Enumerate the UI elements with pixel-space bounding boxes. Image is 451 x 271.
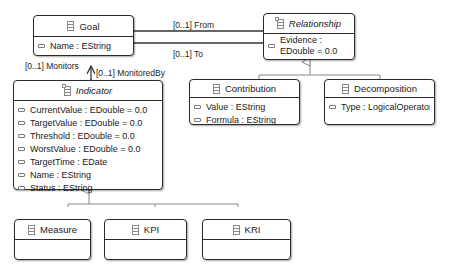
class-name: Contribution [225, 83, 276, 94]
association-label-monitored-by: [0..1] MonitoredBy [96, 68, 165, 78]
attribute[interactable]: WorstValue : EDouble = 0.0 [18, 142, 158, 155]
class-relationship[interactable]: Relationship Evidence : EDouble = 0.0 [263, 13, 355, 60]
eclass-icon [67, 21, 74, 31]
class-measure[interactable]: Measure [14, 219, 91, 260]
eattribute-icon [38, 44, 45, 48]
class-name: KPI [144, 224, 159, 235]
class-goal[interactable]: Goal Name : EString [33, 15, 134, 56]
attribute[interactable]: TargetValue : EDouble = 0.0 [18, 116, 158, 129]
class-name: Measure [40, 224, 77, 235]
eattribute-icon [18, 134, 25, 138]
class-header: Contribution [190, 80, 299, 98]
association-label-monitors: [0..1] Monitors [25, 61, 79, 71]
class-name: Goal [79, 21, 99, 32]
class-name: Relationship [289, 18, 341, 29]
association-label-to: [0..1] To [173, 49, 203, 59]
class-indicator[interactable]: Indicator CurrentValue : EDouble = 0.0 T… [13, 80, 163, 190]
inheritance-indicator [68, 204, 238, 207]
eattribute-icon [18, 186, 25, 190]
class-decomposition[interactable]: Decomposition Type : LogicalOperator [324, 79, 435, 125]
class-header: Relationship [264, 14, 354, 34]
attribute[interactable]: TargetTime : EDate [18, 155, 158, 168]
class-header: Indicator [14, 81, 162, 101]
abstract-eclass-icon [277, 19, 284, 29]
class-header: Measure [15, 220, 90, 240]
attribute-list: Type : LogicalOperator [325, 98, 434, 113]
attribute[interactable]: Evidence : EDouble = 0.0 [280, 35, 337, 57]
eclass-icon [132, 225, 139, 235]
eattribute-icon [18, 121, 25, 125]
eattribute-icon [18, 147, 25, 151]
attribute[interactable]: Type : LogicalOperator [329, 100, 430, 113]
attribute[interactable]: Formula : EString [194, 113, 295, 126]
attribute-list: Value : EString Formula : EString [190, 98, 299, 126]
eattribute-icon [329, 105, 336, 109]
eattribute-icon [18, 108, 25, 112]
class-header: KPI [105, 220, 186, 240]
class-name: Indicator [76, 85, 112, 96]
eattribute-icon [194, 105, 201, 109]
attribute-list: CurrentValue : EDouble = 0.0 TargetValue… [14, 101, 162, 194]
class-kri[interactable]: KRI [202, 219, 291, 260]
attribute[interactable]: Threshold : EDouble = 0.0 [18, 129, 158, 142]
eclass-icon [213, 84, 220, 94]
eattribute-icon [268, 44, 275, 48]
attribute[interactable]: Name : EString [18, 168, 158, 181]
class-header: Decomposition [325, 80, 434, 98]
class-name: KRI [245, 224, 261, 235]
class-name: Decomposition [354, 83, 417, 94]
association-label-from: [0..1] From [173, 20, 214, 30]
attribute-list: Name : EString [34, 37, 133, 52]
class-contribution[interactable]: Contribution Value : EString Formula : E… [189, 79, 300, 125]
attribute[interactable]: CurrentValue : EDouble = 0.0 [18, 103, 158, 116]
class-header: KRI [203, 220, 290, 240]
attribute[interactable]: Name : EString [38, 39, 129, 52]
class-header: Goal [34, 16, 133, 37]
attribute[interactable]: Value : EString [194, 100, 295, 113]
eattribute-icon [18, 173, 25, 177]
eattribute-icon [194, 118, 201, 122]
eclass-icon [342, 84, 349, 94]
eattribute-icon [18, 160, 25, 164]
eclass-icon [233, 225, 240, 235]
abstract-eclass-icon [64, 86, 71, 96]
attribute[interactable]: Status : EString [18, 181, 158, 194]
class-kpi[interactable]: KPI [104, 219, 187, 260]
eclass-icon [28, 225, 35, 235]
attribute-list: Evidence : EDouble = 0.0 [264, 34, 354, 57]
